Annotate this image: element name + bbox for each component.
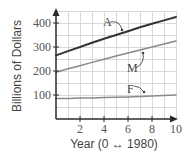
x-tick-label: 2 <box>77 122 83 136</box>
x-tick-label: 8 <box>149 122 155 136</box>
arrowhead-icon <box>121 29 124 32</box>
y-tick-label: 400 <box>33 16 51 30</box>
x-tick-label: 6 <box>125 122 131 136</box>
line-chart: 246810100200300400 AMF Year (0 ↔ 1980) B… <box>0 0 195 155</box>
arrowhead-icon <box>142 52 145 55</box>
y-tick-label: 100 <box>33 88 51 102</box>
arrowhead-icon <box>143 91 146 94</box>
pointer-arrow-icon <box>134 86 144 92</box>
grid-lines <box>56 11 176 119</box>
x-axis-label: Year (0 ↔ 1980) <box>70 137 158 151</box>
y-tick-label: 300 <box>33 40 51 54</box>
series-label-f: F <box>127 82 134 96</box>
y-tick-label: 200 <box>33 64 51 78</box>
x-tick-label: 10 <box>170 122 182 136</box>
y-axis-arrow-icon <box>53 8 60 16</box>
y-axis-label: Billions of Dollars <box>10 20 24 112</box>
axes <box>53 8 179 123</box>
x-tick-label: 4 <box>101 122 107 136</box>
